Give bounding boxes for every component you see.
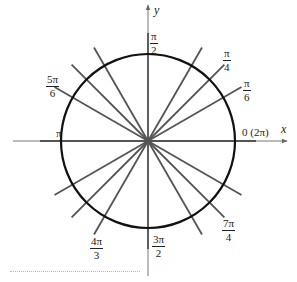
label-numerator: π <box>243 78 251 91</box>
label-denominator: 4 <box>222 231 235 243</box>
x-axis-label: x <box>280 122 287 136</box>
label-pi-over-6: π 6 <box>243 78 251 103</box>
label-numerator: 3π <box>152 234 165 247</box>
label-pi: π <box>56 128 62 139</box>
label-numerator: π <box>223 48 231 61</box>
label-zero-2pi: 0 (2π) <box>242 127 269 138</box>
label-7pi-over-4: 7π 4 <box>222 218 235 243</box>
y-axis-label: y <box>153 3 160 17</box>
label-3pi-over-2: 3π 2 <box>152 234 165 259</box>
label-numerator: π <box>150 31 158 44</box>
label-denominator: 4 <box>223 61 231 73</box>
footer-divider <box>10 271 140 272</box>
unit-circle-diagram: x y <box>0 0 297 282</box>
label-numerator: 4π <box>90 236 103 249</box>
label-pi-over-4: π 4 <box>223 48 231 73</box>
label-pi-over-2: π 2 <box>150 31 158 56</box>
label-5pi-over-6: 5π 6 <box>46 74 59 99</box>
label-numerator: 7π <box>222 218 235 231</box>
label-denominator: 2 <box>150 44 158 56</box>
label-denominator: 2 <box>152 247 165 259</box>
label-4pi-over-3: 4π 3 <box>90 236 103 261</box>
label-denominator: 6 <box>46 87 59 99</box>
label-denominator: 6 <box>243 91 251 103</box>
label-denominator: 3 <box>90 249 103 261</box>
label-numerator: 5π <box>46 74 59 87</box>
